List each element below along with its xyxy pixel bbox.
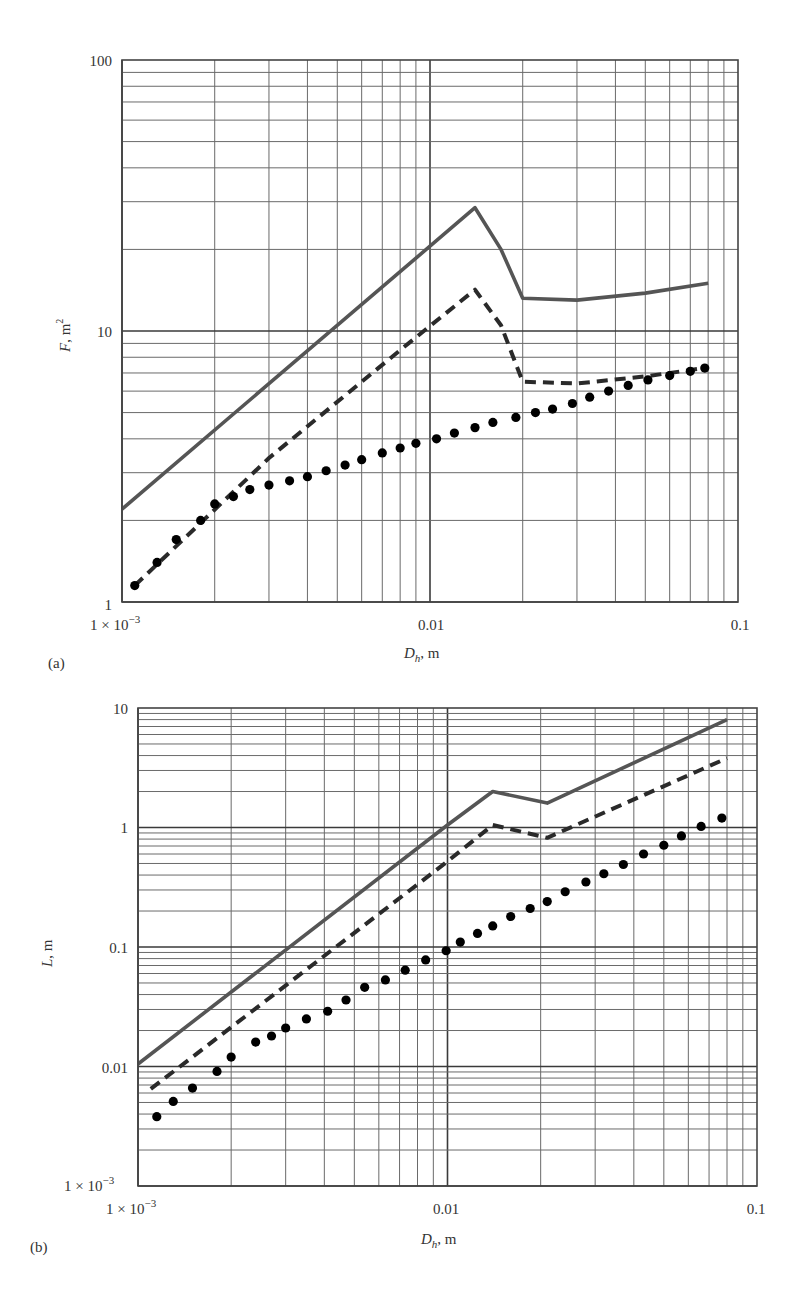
- data-point: [568, 399, 577, 408]
- data-point: [643, 375, 652, 384]
- data-point: [302, 1014, 311, 1023]
- xtick-b-0.1: 0.1: [747, 1201, 766, 1217]
- data-point: [212, 1067, 221, 1076]
- data-point: [473, 929, 482, 938]
- data-point: [700, 363, 709, 372]
- plot-a: 100 10 1 1 × 10−3 0.01 0.1 Dh, m F, m2 (…: [48, 53, 749, 672]
- data-point: [697, 822, 706, 831]
- data-point: [686, 367, 695, 376]
- dashed-line: [151, 758, 727, 1089]
- data-point: [411, 439, 420, 448]
- data-point: [323, 1007, 332, 1016]
- data-point: [229, 492, 238, 501]
- xtick-a-0.01: 0.01: [418, 617, 444, 633]
- ytick-b-1: 1: [121, 820, 129, 836]
- xtick-b-0.01: 0.01: [433, 1201, 459, 1217]
- data-point: [281, 1023, 290, 1032]
- data-point: [639, 849, 648, 858]
- data-point: [285, 476, 294, 485]
- data-point: [604, 387, 613, 396]
- data-point: [526, 904, 535, 913]
- data-point: [581, 877, 590, 886]
- xtick-a-1e-3: 1 × 10−3: [90, 613, 141, 633]
- ytick-b-10: 10: [113, 701, 128, 717]
- data-point: [624, 381, 633, 390]
- data-point: [303, 472, 312, 481]
- ylabel-a: F, m2: [54, 319, 73, 353]
- data-point: [470, 423, 479, 432]
- data-point: [357, 455, 366, 464]
- ytick-b-0.1: 0.1: [109, 940, 128, 956]
- data-point: [245, 485, 254, 494]
- data-point: [421, 955, 430, 964]
- ytick-b-0.01: 0.01: [102, 1060, 128, 1076]
- data-point: [619, 860, 628, 869]
- plot-b: 10 1 0.1 0.01 1 × 10−3 1 × 10−3 0.01 0.1…: [30, 701, 765, 1256]
- data-point: [340, 461, 349, 470]
- data-point: [378, 448, 387, 457]
- ytick-a-100: 100: [90, 53, 113, 69]
- ytick-a-10: 10: [97, 324, 112, 340]
- data-point: [360, 983, 369, 992]
- data-point: [442, 946, 451, 955]
- data-point: [401, 966, 410, 975]
- data-point: [188, 1083, 197, 1092]
- data-point: [381, 975, 390, 984]
- data-point: [322, 466, 331, 475]
- data-point: [130, 581, 139, 590]
- data-point: [396, 443, 405, 452]
- xlabel-a: Dh, m: [403, 645, 440, 664]
- data-point: [561, 887, 570, 896]
- dashed-line: [135, 290, 705, 586]
- data-point: [665, 371, 674, 380]
- data-point: [172, 535, 181, 544]
- data-point: [267, 1031, 276, 1040]
- ytick-a-1: 1: [105, 597, 113, 613]
- data-point: [548, 405, 557, 414]
- data-point: [169, 1097, 178, 1106]
- data-point: [251, 1038, 260, 1047]
- grid-a: [122, 60, 738, 602]
- data-point: [341, 995, 350, 1004]
- xlabel-b: Dh, m: [420, 1231, 457, 1250]
- xtick-b-1e-3: 1 × 10−3: [106, 1197, 157, 1217]
- data-point: [210, 499, 219, 508]
- data-point: [543, 897, 552, 906]
- data-point: [196, 516, 205, 525]
- solid-line: [138, 720, 727, 1064]
- data-point: [506, 912, 515, 921]
- solid-line: [122, 208, 708, 510]
- panel-label-b: (b): [30, 1239, 48, 1256]
- ylabel-b: L, m: [39, 939, 55, 968]
- figure: 100 10 1 1 × 10−3 0.01 0.1 Dh, m F, m2 (…: [0, 0, 802, 1307]
- data-point: [511, 413, 520, 422]
- data-point: [152, 558, 161, 567]
- data-point: [432, 434, 441, 443]
- data-point: [677, 831, 686, 840]
- data-point: [488, 921, 497, 930]
- data-point: [659, 841, 668, 850]
- data-point: [152, 1112, 161, 1121]
- data-point: [717, 813, 726, 822]
- data-point: [456, 937, 465, 946]
- panel-label-a: (a): [48, 655, 65, 672]
- ytick-b-1e-3: 1 × 10−3: [64, 1174, 115, 1194]
- data-point: [585, 393, 594, 402]
- data-point: [599, 869, 608, 878]
- series-b: [138, 720, 727, 1122]
- data-point: [450, 428, 459, 437]
- xtick-a-0.1: 0.1: [731, 617, 750, 633]
- data-point: [531, 408, 540, 417]
- data-point: [227, 1052, 236, 1061]
- data-point: [488, 418, 497, 427]
- data-point: [264, 481, 273, 490]
